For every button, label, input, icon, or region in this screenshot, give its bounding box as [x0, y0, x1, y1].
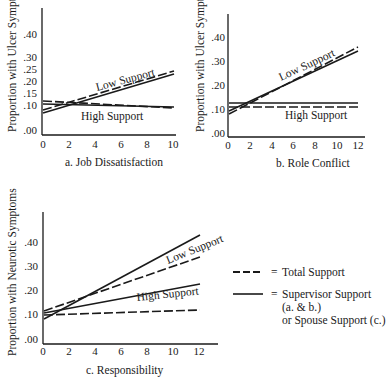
- chart-c-ytick: .00: [24, 333, 38, 345]
- legend-equals: =: [271, 266, 278, 278]
- chart-c-xtick: 6: [118, 345, 124, 357]
- chart-c-ytick: .40: [24, 236, 38, 248]
- chart-a-xtick: 4: [92, 138, 98, 150]
- chart-a-xtick: 2: [66, 138, 72, 150]
- chart-a-high-support-label: High Support: [81, 110, 144, 123]
- chart-c-low-total-line: [44, 257, 200, 311]
- chart-c-ytick: .10: [24, 308, 38, 320]
- chart-b-ytick: .30: [211, 55, 225, 67]
- chart-b-ytick: .40: [211, 31, 225, 43]
- chart-b-xtick: 4: [269, 139, 275, 151]
- chart-c-y-label: Proportion with Neurotic Symptoms: [6, 188, 19, 356]
- chart-b-xtick: 6: [290, 139, 296, 151]
- chart-a-xtick: 0: [40, 138, 46, 150]
- chart-c-high-total-line: [44, 310, 200, 315]
- chart-a-xtick: 8: [144, 138, 150, 150]
- legend-solid-label-3: or Spouse Support (c.): [282, 314, 386, 327]
- figure-canvas: Proportion with Ulcer Symptoms .40 .30 .…: [0, 0, 390, 383]
- legend-dashed-label: Total Support: [282, 266, 346, 279]
- chart-c-ytick: .20: [24, 284, 38, 296]
- chart-b-ytick: .10: [211, 103, 225, 115]
- chart-b-caption: b. Role Conflict: [276, 157, 351, 169]
- chart-b-high-support-label: High Support: [285, 109, 348, 122]
- legend: [233, 272, 263, 294]
- chart-c-xtick: 0: [40, 345, 46, 357]
- chart-a-ytick: .10: [23, 99, 37, 111]
- chart-b-y-label: Proportion with Ulcer Symptoms: [194, 0, 207, 132]
- chart-a-ytick: .40: [23, 28, 37, 40]
- chart-c-xtick: 4: [92, 345, 98, 357]
- legend-solid-label-2: (a. & b.): [282, 301, 321, 314]
- chart-c-high-support-label: High Support: [136, 284, 200, 304]
- chart-c-ytick: .30: [24, 260, 38, 272]
- chart-c-xtick: 10: [168, 345, 180, 357]
- chart-c: [43, 212, 218, 344]
- chart-b-xtick: 2: [247, 139, 253, 151]
- chart-c-xtick: 2: [66, 345, 72, 357]
- chart-a-ytick: .15: [23, 87, 37, 99]
- chart-c-xtick: 12: [194, 345, 205, 357]
- chart-a-ytick: .00: [23, 124, 37, 136]
- chart-b-xtick: 8: [312, 139, 318, 151]
- chart-a-ytick: .20: [23, 75, 37, 87]
- chart-c-low-spouse-line: [44, 235, 200, 319]
- chart-b-xtick: 12: [353, 139, 364, 151]
- chart-a-xtick: 6: [118, 138, 124, 150]
- legend-equals: =: [271, 288, 278, 300]
- chart-a-y-label: Proportion with Ulcer Symptoms: [6, 0, 19, 132]
- chart-b-xtick: 10: [332, 139, 344, 151]
- legend-solid-label-1: Supervisor Support: [282, 288, 372, 301]
- chart-b-xtick: 0: [225, 139, 231, 151]
- chart-a-xtick: 10: [168, 138, 180, 150]
- chart-b-low-supervisor-line: [229, 51, 358, 111]
- chart-a-ytick: .25: [23, 63, 37, 75]
- chart-c-xtick: 8: [144, 345, 150, 357]
- chart-b-ytick: .00: [211, 127, 225, 139]
- chart-c-caption: c. Responsibility: [86, 364, 164, 377]
- chart-b-ytick: .20: [211, 79, 225, 91]
- chart-a-ytick: .30: [23, 51, 37, 63]
- chart-a-caption: a. Job Dissatisfaction: [65, 156, 163, 168]
